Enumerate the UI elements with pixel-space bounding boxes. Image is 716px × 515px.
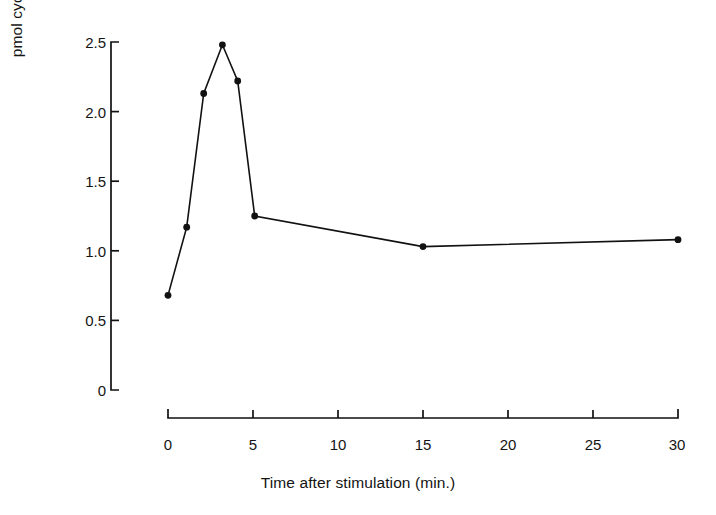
data-point: [675, 236, 682, 243]
y-tick-label-1-0: 1.0: [60, 244, 106, 259]
y-tick-label-2-5: 2.5: [60, 35, 106, 50]
y-tick-label-0-5: 0.5: [60, 313, 106, 328]
y-tick-label-group: 2.5 2.0 1.5 1.0 0.5 0: [54, 0, 106, 515]
data-point: [219, 41, 226, 48]
y-tick-label-1-5: 1.5: [60, 174, 106, 189]
figure-canvas: pmol cyclic AMP per tubule 2.5 2.0 1.5 1…: [0, 0, 716, 515]
y-axis: [111, 42, 119, 390]
data-point: [183, 224, 190, 231]
data-point: [165, 292, 172, 299]
data-point-markers: [165, 41, 682, 298]
data-point: [251, 213, 258, 220]
y-axis-title: pmol cyclic AMP per tubule: [8, 0, 36, 108]
x-tick-label-0: 0: [148, 437, 188, 452]
x-tick-label-10: 10: [318, 437, 358, 452]
x-axis: [168, 409, 678, 418]
data-line-cyclic-amp: [168, 45, 678, 296]
x-tick-label-5: 5: [233, 437, 273, 452]
x-tick-label-30: 30: [657, 437, 697, 452]
data-point: [200, 90, 207, 97]
data-point: [234, 78, 241, 85]
y-tick-label-0: 0: [60, 383, 106, 398]
x-axis-title: Time after stimulation (min.): [0, 474, 716, 492]
data-point: [420, 243, 427, 250]
x-tick-label-25: 25: [573, 437, 613, 452]
x-tick-label-20: 20: [488, 437, 528, 452]
y-tick-label-2-0: 2.0: [60, 105, 106, 120]
x-tick-label-15: 15: [403, 437, 443, 452]
